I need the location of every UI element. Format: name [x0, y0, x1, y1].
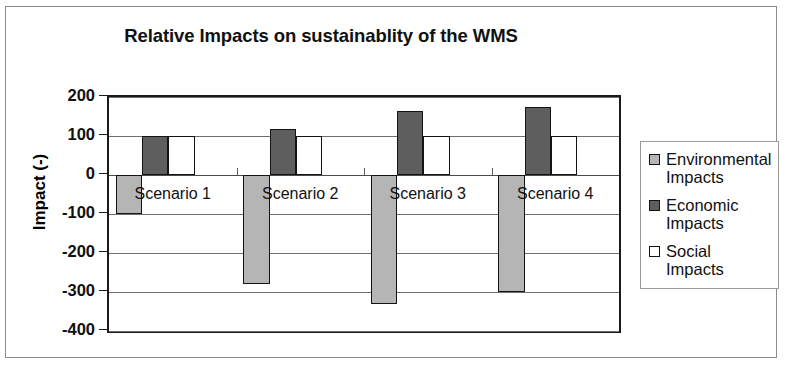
y-axis-tick-mark — [99, 134, 107, 135]
y-axis-tick-mark — [99, 329, 107, 330]
legend-label: SocialImpacts — [666, 242, 724, 279]
y-axis-tick-label: -400 — [39, 321, 95, 338]
gridline — [109, 97, 619, 98]
gridline — [109, 175, 619, 176]
bar-scenario-4-series-1 — [525, 107, 551, 175]
legend-label: EconomicImpacts — [666, 196, 738, 233]
plot-area: Scenario 1Scenario 2Scenario 3Scenario 4 — [107, 95, 621, 333]
legend-entry-3[interactable]: SocialImpacts — [649, 242, 772, 279]
chart-title: Relative Impacts on sustainablity of the… — [6, 25, 636, 47]
legend-label-line-1: Environmental — [666, 150, 771, 168]
y-axis-title: Impact (-) — [30, 122, 50, 262]
chart-frame: Relative Impacts on sustainablity of the… — [5, 6, 777, 358]
y-axis-tick-label: 100 — [39, 126, 95, 143]
y-axis-tick-mark — [99, 173, 107, 174]
y-axis-tick-mark — [99, 290, 107, 291]
bar-scenario-1-series-2 — [168, 136, 194, 175]
gridline — [109, 253, 619, 254]
legend-swatch-icon — [649, 154, 660, 165]
category-label-1: Scenario 1 — [109, 186, 237, 202]
legend-label-line-2: Impacts — [666, 168, 771, 186]
category-tick — [237, 168, 238, 175]
category-tick — [492, 168, 493, 175]
gridline — [109, 292, 619, 293]
y-axis-tick-mark — [99, 212, 107, 213]
y-axis-tick-mark — [99, 95, 107, 96]
legend-swatch-icon — [649, 200, 660, 211]
category-label-4: Scenario 4 — [492, 186, 620, 202]
legend-swatch-icon — [649, 246, 660, 257]
bar-scenario-3-series-1 — [397, 111, 423, 175]
y-axis-tick-label: -300 — [39, 282, 95, 299]
y-axis-tick-label: -200 — [39, 243, 95, 260]
y-axis-tick-mark — [99, 251, 107, 252]
legend-label-line-1: Economic — [666, 196, 738, 214]
category-tick — [364, 168, 365, 175]
legend-label-line-2: Impacts — [666, 214, 738, 232]
chart-legend: EnvironmentalImpactsEconomicImpactsSocia… — [640, 141, 779, 289]
gridline — [109, 214, 619, 215]
legend-label: EnvironmentalImpacts — [666, 150, 771, 187]
category-label-3: Scenario 3 — [364, 186, 492, 202]
y-axis-tick-label: 200 — [39, 87, 95, 104]
y-axis-tick-label: -100 — [39, 204, 95, 221]
bar-scenario-2-series-2 — [296, 136, 322, 175]
legend-label-line-1: Social — [666, 242, 724, 260]
legend-label-line-2: Impacts — [666, 260, 724, 278]
category-label-2: Scenario 2 — [237, 186, 365, 202]
legend-entry-2[interactable]: EconomicImpacts — [649, 196, 772, 233]
bar-scenario-4-series-2 — [551, 136, 577, 175]
bar-scenario-1-series-1 — [142, 136, 168, 175]
plot-inner: Scenario 1Scenario 2Scenario 3Scenario 4 — [109, 97, 619, 331]
bar-scenario-2-series-1 — [270, 129, 296, 175]
legend-entry-1[interactable]: EnvironmentalImpacts — [649, 150, 772, 187]
bar-scenario-3-series-2 — [423, 136, 449, 175]
y-axis-tick-label: 0 — [39, 165, 95, 182]
gridline — [109, 331, 619, 332]
